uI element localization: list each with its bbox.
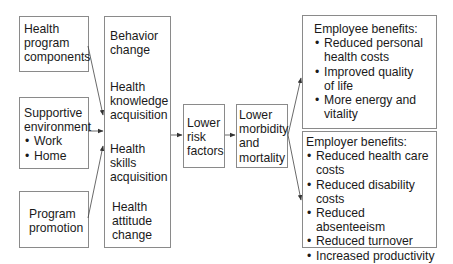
environment-list: Work Home: [24, 134, 88, 162]
box-line: skills: [110, 156, 168, 170]
box-line: knowledge: [110, 94, 168, 108]
box-line: change: [112, 228, 152, 242]
employee-benefits-list: Reduced personal health costs Improved q…: [314, 36, 436, 121]
health-outcomes-box: Behavior change Health knowledge acquisi…: [104, 16, 171, 248]
list-item-line: Reduced absenteeism: [316, 206, 436, 234]
list-item-line: Reduced turnover: [316, 234, 436, 248]
list-item-line: Reduced personal: [324, 36, 436, 50]
box-line: Health: [24, 22, 88, 36]
list-item: Improved quality of life: [314, 65, 436, 93]
box-line: environment: [24, 120, 88, 134]
knowledge-acquisition-item: Health knowledge acquisition: [110, 80, 168, 123]
list-item-line: health costs: [324, 50, 436, 64]
skills-acquisition-item: Health skills acquisition: [110, 142, 168, 185]
list-item-line: of life: [324, 79, 436, 93]
box-line: Health: [112, 200, 152, 214]
box-line: program: [24, 36, 88, 50]
lower-morbidity-mortality-box: Lower morbidity and mortality: [236, 104, 288, 168]
box-line: morbidity: [239, 122, 287, 136]
list-item: Increased productivity: [306, 249, 436, 263]
box-line: acquisition: [110, 170, 168, 184]
list-item: Reduced disability costs: [306, 178, 436, 206]
arrow-morbidity-to-employee: [288, 78, 301, 135]
list-item-line: vitality: [324, 107, 436, 121]
list-item: Reduced turnover: [306, 234, 436, 248]
behavior-change-item: Behavior change: [110, 29, 158, 57]
health-program-components-box: Health program components: [19, 16, 89, 72]
list-item: Reduced absenteeism: [306, 206, 436, 234]
list-item-line: costs: [316, 163, 436, 177]
box-line: mortality: [239, 151, 287, 165]
box-line: Program: [29, 207, 88, 221]
employer-benefits-box: Employer benefits: Reduced health care c…: [302, 131, 437, 248]
box-line: change: [110, 43, 158, 57]
box-line: Health: [110, 80, 168, 94]
employee-benefits-box: Employee benefits: Reduced personal heal…: [302, 15, 437, 129]
arrow-promotion-to-outcomes: [88, 146, 103, 218]
box-line: attitude: [112, 214, 152, 228]
employer-benefits-list: Reduced health care costs Reduced disabi…: [306, 149, 436, 263]
box-line: and: [239, 136, 287, 150]
list-item-line: Improved quality: [324, 65, 436, 79]
list-item: Reduced health care costs: [306, 149, 436, 177]
box-line: Supportive: [24, 106, 88, 120]
list-item-line: Reduced health care: [316, 149, 436, 163]
program-promotion-box: Program promotion: [19, 191, 89, 248]
box-line: promotion: [29, 221, 88, 235]
employer-benefits-title: Employer benefits:: [306, 135, 436, 149]
list-item-line: Increased productivity: [316, 249, 436, 263]
box-line: acquisition: [110, 108, 168, 122]
attitude-change-item: Health attitude change: [112, 200, 152, 243]
employee-benefits-title: Employee benefits:: [314, 22, 436, 36]
box-line: risk: [187, 130, 224, 144]
box-line: components: [24, 50, 88, 64]
list-item-line: costs: [316, 192, 436, 206]
supportive-environment-box: Supportive environment Work Home: [19, 97, 89, 169]
list-item: Reduced personal health costs: [314, 36, 436, 64]
box-line: Behavior: [110, 29, 158, 43]
box-line: factors: [187, 144, 224, 158]
list-item: Work: [24, 134, 88, 148]
lower-risk-factors-box: Lower risk factors: [183, 104, 225, 168]
box-line: Lower: [187, 116, 224, 130]
list-item-line: More energy and: [324, 93, 436, 107]
arrow-morbidity-to-employer: [288, 135, 301, 200]
box-line: Lower: [239, 108, 287, 122]
list-item: Home: [24, 149, 88, 163]
box-line: Health: [110, 142, 168, 156]
list-item-line: Reduced disability: [316, 178, 436, 192]
list-item: More energy and vitality: [314, 93, 436, 121]
arrow-components-to-outcomes: [88, 46, 103, 115]
